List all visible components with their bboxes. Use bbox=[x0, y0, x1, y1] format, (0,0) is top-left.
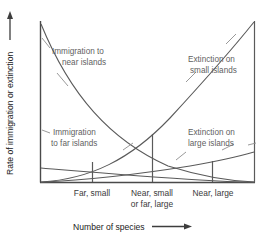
leader-immigration-far-right bbox=[123, 143, 133, 150]
annotation-extinction-small-line2: small islands bbox=[190, 66, 237, 75]
leader-immigration-far bbox=[42, 130, 50, 133]
annotation-immigration-far-line2: to far islands bbox=[51, 139, 97, 148]
annotation-extinction-large-islands: Extinction on large islands bbox=[188, 128, 235, 148]
x-tick-near-small-or-far-large-line1: Near, small bbox=[131, 188, 173, 198]
x-axis-title: Number of species bbox=[73, 222, 145, 232]
x-tick-near-small-or-far-large-line2: or far, large bbox=[131, 199, 174, 209]
y-axis-arrow-head bbox=[7, 11, 13, 19]
leader-extinction-large-far-left bbox=[176, 152, 186, 160]
annotation-immigration-near-line1: Immigration to bbox=[52, 47, 104, 56]
annotation-extinction-large-line2: large islands bbox=[188, 139, 234, 148]
annotation-immigration-far-line1: Immigration bbox=[53, 128, 96, 137]
curve-extinction-small-islands bbox=[41, 22, 254, 182]
annotation-immigration-far-islands: Immigration to far islands bbox=[51, 128, 97, 148]
annotation-extinction-small-line1: Extinction on bbox=[188, 55, 235, 64]
y-axis-title: Rate of immigration or extinction bbox=[5, 52, 15, 175]
leader-extinction-small bbox=[226, 34, 236, 44]
x-axis-arrow-head bbox=[184, 224, 192, 230]
x-tick-far-small-line1: Far, small bbox=[74, 188, 110, 198]
x-tick-labels: Far, small Near, small or far, large Nea… bbox=[74, 188, 234, 209]
annotation-extinction-large-line1: Extinction on bbox=[188, 128, 235, 137]
x-axis-title-group: Number of species bbox=[73, 222, 192, 232]
annotation-extinction-small-islands: Extinction on small islands bbox=[188, 55, 237, 75]
annotation-immigration-near-line2: near islands bbox=[62, 58, 106, 67]
plot-frame bbox=[40, 21, 255, 183]
island-biogeography-diagram: Rate of immigration or extinction bbox=[0, 0, 264, 240]
y-axis-title-group: Rate of immigration or extinction bbox=[5, 11, 15, 175]
x-tick-near-large-line1: Near, large bbox=[193, 188, 234, 198]
